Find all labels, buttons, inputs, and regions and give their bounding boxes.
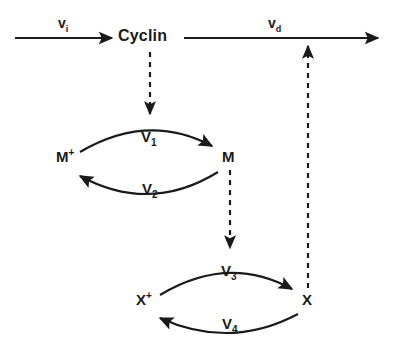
flux-vi-base: v <box>58 15 66 31</box>
rate-v1-subscript: 1 <box>151 137 157 148</box>
flux-vi-subscript: i <box>66 24 69 34</box>
node-label-m-plus: M+ <box>56 148 74 164</box>
rate-v4-subscript: 4 <box>232 324 238 335</box>
rate-v4-base: V <box>222 315 232 332</box>
rate-label-v3: V3 <box>221 263 237 282</box>
node-label-x-plus: X+ <box>136 291 152 307</box>
node-m-plus-superscript: + <box>69 147 75 158</box>
node-x-plus-base: X <box>136 291 146 308</box>
rate-v3-base: V <box>221 262 231 279</box>
rate-v1-base: V <box>141 128 151 145</box>
diagram-vector-layer <box>0 0 402 352</box>
node-label-cyclin: Cyclin <box>118 28 167 44</box>
rate-label-v4: V4 <box>222 316 238 335</box>
flux-vd-subscript: d <box>276 24 282 34</box>
rate-v2-base: V <box>142 180 152 197</box>
node-label-x: X <box>302 291 312 307</box>
node-x-base: X <box>302 291 312 308</box>
flux-label-vi: vi <box>58 16 68 34</box>
node-x-plus-superscript: + <box>146 290 152 301</box>
flux-vd-base: v <box>268 15 276 31</box>
node-label-m: M <box>222 148 235 164</box>
node-m-base: M <box>222 148 235 165</box>
rate-v2-subscript: 2 <box>152 189 158 200</box>
node-m-plus-base: M <box>56 148 69 165</box>
flux-label-vd: vd <box>268 16 281 34</box>
rate-label-v2: V2 <box>142 181 158 200</box>
diagram-canvas: vi Cyclin vd V1 V2 M+ M V3 V4 X+ X <box>0 0 402 352</box>
rate-v3-subscript: 3 <box>231 271 237 282</box>
rate-label-v1: V1 <box>141 129 157 148</box>
